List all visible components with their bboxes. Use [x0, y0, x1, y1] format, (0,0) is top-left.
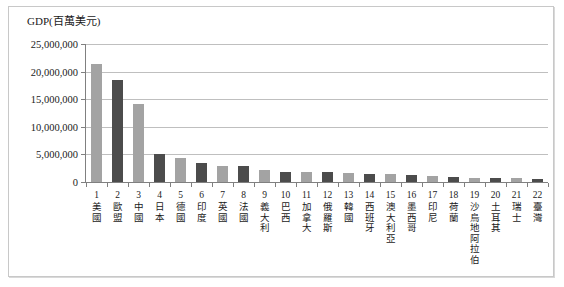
- x-axis-rank: 4: [150, 190, 170, 201]
- x-axis-rank: 17: [423, 190, 443, 201]
- plot-area: [86, 44, 548, 182]
- x-axis-category-label: 5德國: [171, 190, 191, 223]
- chart-figure: GDP(百萬美元) 25,000,00020,000,00015,000,000…: [0, 0, 564, 287]
- bar: [280, 172, 291, 182]
- x-axis-category-label: 8法國: [234, 190, 254, 223]
- x-axis-rank: 9: [255, 190, 275, 201]
- x-axis-rank: 15: [381, 190, 401, 201]
- bar: [322, 172, 333, 182]
- x-axis-tick: [149, 183, 150, 187]
- x-axis-rank: 1: [87, 190, 107, 201]
- x-axis-category-label: 12俄羅斯: [318, 190, 338, 234]
- x-axis-country-name: 英國: [217, 202, 228, 223]
- x-axis-country-name: 俄羅斯: [322, 202, 333, 234]
- x-axis-category-label: 22臺灣: [528, 190, 548, 223]
- x-axis-country-name: 巴西: [280, 202, 291, 223]
- x-axis-rank: 14: [360, 190, 380, 201]
- x-axis-category-label: 1美國: [87, 190, 107, 223]
- x-axis-rank: 6: [192, 190, 212, 201]
- x-axis-tick: [401, 183, 402, 187]
- y-axis-tick: [81, 127, 85, 128]
- x-axis-category-label: 20土耳其: [486, 190, 506, 234]
- x-axis-country-name: 瑞士: [511, 202, 522, 223]
- bar: [259, 170, 270, 182]
- x-axis-category-label: 2歐盟: [108, 190, 128, 223]
- x-axis-category-label: 13韓國: [339, 190, 359, 223]
- x-axis-tick: [506, 183, 507, 187]
- bar: [448, 177, 459, 182]
- bar: [364, 174, 375, 182]
- x-axis-rank: 11: [297, 190, 317, 201]
- y-axis-tick: [81, 182, 85, 183]
- x-axis-tick: [254, 183, 255, 187]
- x-axis-category-label: 11加拿大: [297, 190, 317, 234]
- x-axis-country-name: 臺灣: [532, 202, 543, 223]
- x-axis-category-label: 3中國: [129, 190, 149, 223]
- x-axis-rank: 22: [528, 190, 548, 201]
- bar: [427, 176, 438, 182]
- x-axis-rank: 3: [129, 190, 149, 201]
- x-axis-country-name: 印度: [196, 202, 207, 223]
- gridline: [86, 99, 548, 100]
- x-axis-country-name: 美國: [91, 202, 102, 223]
- x-axis-rank: 20: [486, 190, 506, 201]
- x-axis-country-name: 沙烏地阿拉伯: [469, 202, 480, 265]
- x-axis-tick: [338, 183, 339, 187]
- x-axis-category-label: 10巴西: [276, 190, 296, 223]
- bar: [532, 179, 543, 182]
- x-axis-country-name: 澳大利亞: [385, 202, 396, 244]
- bar: [217, 166, 228, 182]
- x-axis-rank: 19: [465, 190, 485, 201]
- x-axis-tick: [86, 183, 87, 187]
- bar: [343, 173, 354, 182]
- x-axis-country-name: 法國: [238, 202, 249, 223]
- x-axis-category-label: 18荷蘭: [444, 190, 464, 223]
- y-axis-tick-label: 15,000,000: [31, 94, 78, 105]
- x-axis-country-name: 韓國: [343, 202, 354, 223]
- bar: [238, 166, 249, 182]
- y-axis-tick-label: 0: [73, 177, 78, 188]
- x-axis-rank: 12: [318, 190, 338, 201]
- x-axis-tick: [128, 183, 129, 187]
- x-axis-category-label: 16墨西哥: [402, 190, 422, 234]
- y-axis-tick-label: 5,000,000: [36, 149, 78, 160]
- x-axis-category-label: 7英國: [213, 190, 233, 223]
- x-axis-country-name: 日本: [154, 202, 165, 223]
- x-axis-category-label: 17印尼: [423, 190, 443, 223]
- x-axis-tick: [233, 183, 234, 187]
- x-axis-tick: [191, 183, 192, 187]
- bar: [406, 175, 417, 182]
- bar: [301, 172, 312, 182]
- bar: [511, 178, 522, 182]
- gridline: [86, 44, 548, 45]
- gridline: [86, 72, 548, 73]
- x-axis-rank: 8: [234, 190, 254, 201]
- bar: [112, 80, 123, 182]
- x-axis-tick: [212, 183, 213, 187]
- y-axis-labels: 25,000,00020,000,00015,000,00010,000,000…: [0, 0, 78, 287]
- x-axis-country-name: 中國: [133, 202, 144, 223]
- x-axis-tick: [275, 183, 276, 187]
- x-axis-category-label: 9義大利: [255, 190, 275, 234]
- x-axis-category-label: 14西班牙: [360, 190, 380, 234]
- y-axis-tick-label: 25,000,000: [31, 39, 78, 50]
- y-axis-tick: [81, 154, 85, 155]
- x-axis-category-label: 21瑞士: [507, 190, 527, 223]
- x-axis-rank: 21: [507, 190, 527, 201]
- x-axis-rank: 7: [213, 190, 233, 201]
- gridline: [86, 127, 548, 128]
- x-axis-country-name: 墨西哥: [406, 202, 417, 234]
- x-axis-tick: [296, 183, 297, 187]
- bar: [469, 178, 480, 182]
- x-axis-tick: [422, 183, 423, 187]
- x-axis-country-name: 德國: [175, 202, 186, 223]
- x-axis-tick: [380, 183, 381, 187]
- x-axis-tick: [107, 183, 108, 187]
- x-axis-country-name: 荷蘭: [448, 202, 459, 223]
- x-axis-category-label: 15澳大利亞: [381, 190, 401, 244]
- x-axis-rank: 10: [276, 190, 296, 201]
- x-axis-country-name: 加拿大: [301, 202, 312, 234]
- x-axis-tick: [317, 183, 318, 187]
- x-axis-rank: 2: [108, 190, 128, 201]
- x-axis-rank: 5: [171, 190, 191, 201]
